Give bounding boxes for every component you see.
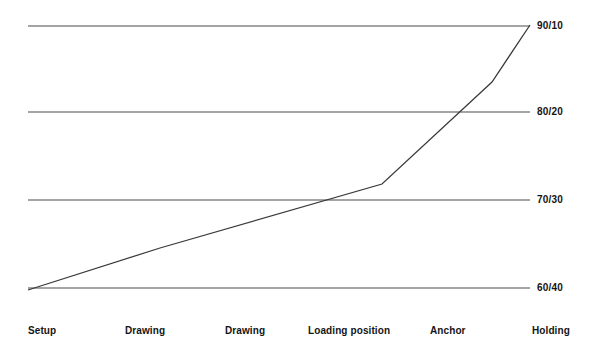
- chart-plot-area: [0, 0, 596, 353]
- x-tick-label-setup: Setup: [28, 324, 56, 338]
- line-chart: 90/10 80/20 70/30 60/40 Setup Drawing Dr…: [0, 0, 596, 353]
- x-tick-label-anchor: Anchor: [430, 324, 466, 338]
- x-tick-label-drawing-2: Drawing: [225, 324, 265, 338]
- data-series-line: [28, 25, 530, 290]
- x-axis: Setup Drawing Drawing Loading position A…: [0, 324, 596, 344]
- gridlines: [28, 26, 530, 288]
- x-tick-label-holding: Holding: [532, 324, 570, 338]
- x-tick-label-drawing-1: Drawing: [125, 324, 165, 338]
- x-tick-label-loading-position: Loading position: [308, 324, 390, 338]
